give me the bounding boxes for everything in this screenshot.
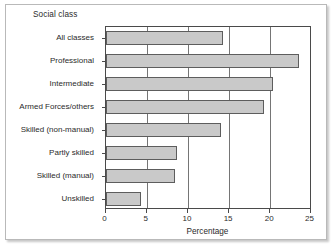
y-axis-label-all-classes: All classes: [56, 33, 94, 42]
y-axis-labels: All classes Professional Intermediate Ar…: [0, 26, 100, 209]
bar-row: [106, 141, 178, 164]
bar-unskilled: [106, 192, 141, 206]
x-tick-0: [105, 209, 106, 213]
x-tick-5: [146, 209, 147, 213]
bar-series: [106, 27, 310, 208]
y-axis-label-armed-forces-others: Armed Forces/others: [19, 102, 94, 111]
x-tick-10: [187, 209, 188, 213]
bar-row: [106, 164, 175, 187]
y-axis-label-unskilled: Unskilled: [62, 193, 94, 202]
bar-row: [106, 73, 273, 96]
bar-partly-skilled: [106, 146, 178, 160]
y-axis-label-skilled-manual: Skilled (manual): [37, 170, 94, 179]
x-tick-15: [228, 209, 229, 213]
bar-skilled-non-manual: [106, 123, 221, 137]
x-tick-label-10: 10: [182, 214, 191, 223]
y-axis-label-intermediate: Intermediate: [50, 79, 94, 88]
x-tick-25: [310, 209, 311, 213]
x-axis-title: Percentage: [105, 227, 311, 236]
bar-row: [106, 50, 299, 73]
chart-figure: Social class All classes Professional In…: [0, 0, 333, 247]
plot-area: [105, 26, 311, 209]
bar-row: [106, 119, 221, 142]
x-tick-label-5: 5: [143, 214, 147, 223]
bar-professional: [106, 54, 299, 68]
bar-row: [106, 27, 224, 50]
x-tick-label-15: 15: [224, 214, 233, 223]
bar-intermediate: [106, 77, 273, 91]
y-axis-label-professional: Professional: [50, 56, 94, 65]
y-axis-label-partly-skilled: Partly skilled: [49, 147, 94, 156]
chart-title: Social class: [33, 10, 77, 19]
bar-row: [106, 187, 141, 210]
x-tick-label-20: 20: [265, 214, 274, 223]
bar-all-classes: [106, 31, 224, 45]
x-tick-label-25: 25: [305, 214, 314, 223]
bar-armed-forces-others: [106, 100, 264, 114]
x-axis-tick-labels: 0 5 10 15 20 25: [105, 214, 311, 226]
y-axis-label-skilled-non-manual: Skilled (non-manual): [21, 124, 94, 133]
bar-row: [106, 96, 264, 119]
x-tick-20: [269, 209, 270, 213]
x-tick-label-0: 0: [102, 214, 106, 223]
bar-skilled-manual: [106, 169, 175, 183]
